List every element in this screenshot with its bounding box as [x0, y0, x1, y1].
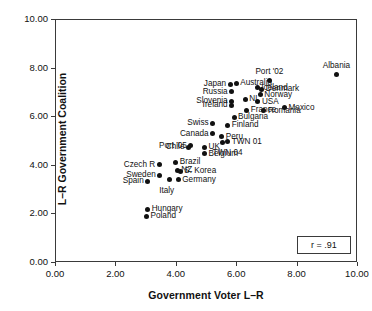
x-tick-mark	[297, 262, 298, 266]
x-tick-label: 2.00	[93, 268, 137, 279]
data-point-label: Ireland	[203, 101, 228, 109]
data-point-label: Albania	[323, 62, 350, 70]
scatter-plot-figure: L–R Government Coalition Government Vote…	[0, 0, 372, 311]
data-point	[229, 103, 234, 108]
data-point-label: Poland	[151, 212, 177, 220]
data-point-label: Chile	[166, 143, 185, 151]
y-tick-mark	[51, 116, 55, 117]
y-axis-title: L–R Government Coalition	[56, 18, 68, 261]
data-point	[178, 169, 183, 174]
y-tick-mark	[51, 213, 55, 214]
x-tick-label: 10.00	[335, 268, 372, 279]
data-point-label: Germany	[182, 176, 216, 184]
plot-area	[55, 19, 357, 262]
data-point-label: Finland	[232, 121, 259, 129]
data-point-label: Belgium	[208, 150, 238, 158]
data-point	[145, 207, 150, 212]
data-point-label: Romania	[268, 107, 301, 115]
y-tick-label: 4.00	[4, 159, 48, 170]
y-tick-label: 0.00	[4, 256, 48, 267]
data-point	[228, 82, 233, 87]
data-point	[232, 115, 237, 120]
x-tick-label: 4.00	[154, 268, 198, 279]
y-tick-mark	[51, 165, 55, 166]
y-tick-label: 10.00	[4, 13, 48, 24]
data-point-label: Canada	[180, 130, 209, 138]
x-tick-label: 0.00	[33, 268, 77, 279]
x-tick-label: 8.00	[275, 268, 319, 279]
x-tick-mark	[115, 262, 116, 266]
data-point-label: TWN 01	[232, 138, 262, 146]
y-tick-mark	[51, 68, 55, 69]
data-point	[220, 140, 225, 145]
data-point	[234, 81, 239, 86]
data-point	[243, 97, 248, 102]
y-tick-label: 8.00	[4, 62, 48, 73]
y-tick-mark	[51, 19, 55, 20]
data-point-label: Swiss	[187, 119, 208, 127]
data-point-label: Italy	[159, 187, 174, 195]
x-tick-mark	[55, 262, 56, 266]
data-point-label: Spain	[123, 177, 144, 185]
y-tick-mark	[51, 262, 55, 263]
data-point	[157, 173, 162, 178]
y-tick-label: 2.00	[4, 207, 48, 218]
x-tick-mark	[357, 262, 358, 266]
data-point	[210, 121, 215, 126]
data-point	[186, 145, 191, 150]
data-point	[202, 145, 207, 150]
x-tick-mark	[176, 262, 177, 266]
correlation-annotation: r = .91	[297, 236, 351, 254]
data-point-label: Port '02	[255, 68, 283, 76]
x-tick-mark	[236, 262, 237, 266]
y-tick-label: 6.00	[4, 110, 48, 121]
correlation-value: r = .91	[311, 240, 337, 250]
x-axis-title: Government Voter L–R	[55, 289, 357, 301]
data-point-label: Czech R	[124, 161, 155, 169]
x-tick-label: 6.00	[214, 268, 258, 279]
data-point-label: Russia	[203, 88, 228, 96]
data-point	[144, 214, 149, 219]
